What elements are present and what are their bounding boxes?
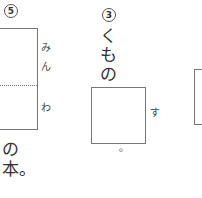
furigana-hint: す [150,108,160,118]
answer-box-5[interactable] [0,28,38,130]
box-divider-dotted [0,85,37,86]
answer-box-3[interactable] [91,87,146,144]
furigana-hint: わ [41,103,51,113]
furigana-hint: み [41,43,51,53]
sentence-text: の [100,65,117,83]
sentence-period: 。 [119,143,129,153]
problem-number-3: 3 [102,8,116,22]
answer-box-partial[interactable] [194,69,202,125]
sentence-text: も [100,46,117,64]
sentence-text: 本。 [2,160,22,178]
furigana-hint: ん [41,62,51,72]
sentence-text: く [100,27,117,45]
problem-number-5: 5 [4,4,18,18]
sentence-text: の [2,140,19,158]
